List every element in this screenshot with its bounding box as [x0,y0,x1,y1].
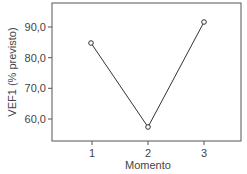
data-point-marker [89,41,94,46]
x-axis: 1 2 3 Momento [89,141,207,171]
y-axis-title: VEF1 (% previsto) [6,27,18,116]
y-axis: 60,0 70,0 80,0 90,0 VEF1 (% previsto) [6,21,52,125]
data-point-marker [202,20,207,25]
x-tick-label: 3 [201,147,207,159]
y-tick-label: 60,0 [25,113,46,125]
x-tick-label: 1 [89,147,95,159]
plot-frame [52,3,241,141]
y-tick-label: 70,0 [25,82,46,94]
x-tick-label: 2 [145,147,151,159]
line-chart: 60,0 70,0 80,0 90,0 VEF1 (% previsto) 1 … [0,0,247,174]
series-line [91,22,204,127]
series-vef1 [89,20,207,130]
x-axis-title: Momento [125,159,171,171]
y-tick-label: 90,0 [25,21,46,33]
data-point-marker [146,125,151,130]
y-tick-label: 80,0 [25,52,46,64]
